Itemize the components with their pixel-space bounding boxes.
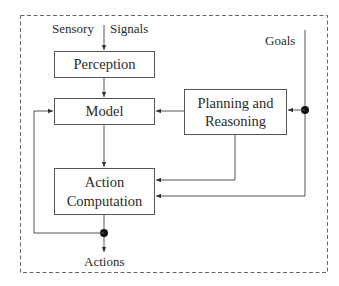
planning-label-line2: Reasoning bbox=[205, 112, 266, 130]
action-label-line1: Action bbox=[85, 173, 124, 191]
action-computation-block: Action Computation bbox=[54, 168, 155, 215]
actions-label: Actions bbox=[84, 255, 124, 268]
goals-label: Goals bbox=[265, 34, 295, 47]
arrow-planning-to-action bbox=[156, 134, 235, 180]
model-label: Model bbox=[86, 102, 124, 120]
model-block: Model bbox=[54, 98, 155, 125]
perception-label: Perception bbox=[73, 55, 135, 73]
signals-label: Signals bbox=[110, 22, 148, 35]
perception-block: Perception bbox=[54, 51, 155, 78]
planning-block: Planning and Reasoning bbox=[184, 89, 287, 135]
action-label-line2: Computation bbox=[67, 192, 143, 210]
sensory-label: Sensory bbox=[52, 22, 94, 35]
planning-label-line1: Planning and bbox=[197, 94, 273, 112]
